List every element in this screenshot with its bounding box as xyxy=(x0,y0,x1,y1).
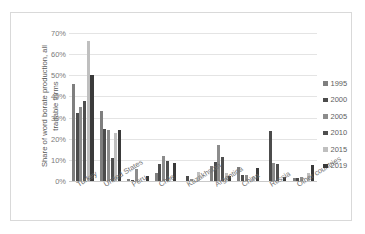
legend-item-label: 1995 xyxy=(331,79,348,88)
chart-legend: 199520002005201020152019 xyxy=(323,75,365,174)
bar-group xyxy=(152,33,180,181)
bars-layer xyxy=(69,33,317,181)
legend-item[interactable]: 2019 xyxy=(323,158,365,175)
bar xyxy=(83,101,86,181)
legend-item-label: 2000 xyxy=(331,95,348,104)
bar-group xyxy=(234,33,262,181)
legend-item-label: 2019 xyxy=(331,161,348,170)
legend-swatch-icon xyxy=(323,114,328,119)
legend-item-label: 2010 xyxy=(331,128,348,137)
y-axis-tick-label: 10% xyxy=(51,155,66,164)
legend-swatch-icon xyxy=(323,81,328,86)
bar xyxy=(269,131,272,181)
y-axis-title: Share of word borate production, all tra… xyxy=(25,0,51,31)
bar-group xyxy=(69,33,97,181)
chart-frame: Share of word borate production, all tra… xyxy=(10,12,352,221)
legend-item[interactable]: 2005 xyxy=(323,108,365,125)
y-axis-tick-label: 0% xyxy=(55,177,66,186)
bar xyxy=(79,107,82,181)
plot-area: 0%10%20%30%40%50%60%70% xyxy=(69,33,317,181)
bar-group xyxy=(290,33,318,181)
legend-item[interactable]: 1995 xyxy=(323,75,365,92)
y-axis-tick-label: 70% xyxy=(51,29,66,38)
legend-swatch-icon xyxy=(323,147,328,152)
y-axis-tick-label: 30% xyxy=(51,113,66,122)
bar-group xyxy=(207,33,235,181)
legend-swatch-icon xyxy=(323,98,328,103)
legend-item-label: 2015 xyxy=(331,145,348,154)
bar xyxy=(90,75,93,181)
bar-group xyxy=(262,33,290,181)
legend-swatch-icon xyxy=(323,131,328,136)
y-axis-tick-label: 20% xyxy=(51,134,66,143)
y-axis-tick-label: 40% xyxy=(51,92,66,101)
legend-item[interactable]: 2000 xyxy=(323,92,365,109)
y-axis-tick-label: 60% xyxy=(51,50,66,59)
legend-swatch-icon xyxy=(323,164,328,169)
x-axis-labels: TurkeyUnited StatesPeruChileKazakhstanAr… xyxy=(69,181,317,234)
legend-item-label: 2005 xyxy=(331,112,348,121)
bar-group xyxy=(97,33,125,181)
bar xyxy=(100,111,103,181)
bar xyxy=(87,41,90,181)
bar xyxy=(72,84,75,181)
bar xyxy=(76,113,79,181)
bar-group xyxy=(179,33,207,181)
bar xyxy=(103,129,106,181)
legend-item[interactable]: 2010 xyxy=(323,125,365,142)
y-axis-tick-label: 50% xyxy=(51,71,66,80)
bar xyxy=(107,130,110,181)
legend-item[interactable]: 2015 xyxy=(323,141,365,158)
